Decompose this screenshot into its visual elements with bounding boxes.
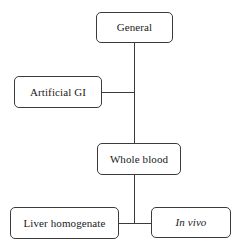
- node-in-vivo-label: In vivo: [174, 217, 209, 228]
- node-liver-homogenate[interactable]: Liver homogenate: [10, 207, 119, 239]
- node-artificial-gi-label: Artificial GI: [28, 87, 88, 98]
- edge-bottom-bus-to-liver-homogenate: [118, 223, 135, 224]
- node-in-vivo[interactable]: In vivo: [151, 207, 231, 238]
- node-general-label: General: [115, 22, 155, 33]
- node-artificial-gi[interactable]: Artificial GI: [14, 76, 102, 108]
- diagram-canvas: General Artificial GI Whole blood Liver …: [0, 0, 237, 249]
- edge-whole-blood-to-bottom-bus: [134, 174, 135, 224]
- edge-general-to-whole-blood: [134, 42, 135, 144]
- node-general[interactable]: General: [96, 12, 173, 43]
- node-whole-blood[interactable]: Whole blood: [97, 143, 181, 175]
- node-whole-blood-label: Whole blood: [108, 154, 170, 165]
- node-liver-homogenate-label: Liver homogenate: [22, 218, 108, 229]
- edge-bottom-bus-to-in-vivo: [134, 223, 152, 224]
- edge-artificial-gi-to-trunk: [101, 92, 135, 93]
